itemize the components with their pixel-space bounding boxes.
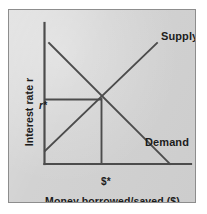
demand-curve-label: Demand: [145, 136, 189, 148]
y-axis-label: Interest rate r: [23, 60, 35, 164]
figure-frame: Supply Demand r* $* Interest rate r Mone…: [8, 9, 196, 203]
equilibrium-rate-label: r*: [39, 100, 47, 111]
figure-root: Supply Demand r* $* Interest rate r Mone…: [0, 0, 207, 214]
supply-curve-label: Supply: [161, 30, 196, 42]
x-axis-label: Money borrowed/saved ($): [9, 195, 196, 203]
equilibrium-quantity-label: $*: [101, 176, 111, 187]
